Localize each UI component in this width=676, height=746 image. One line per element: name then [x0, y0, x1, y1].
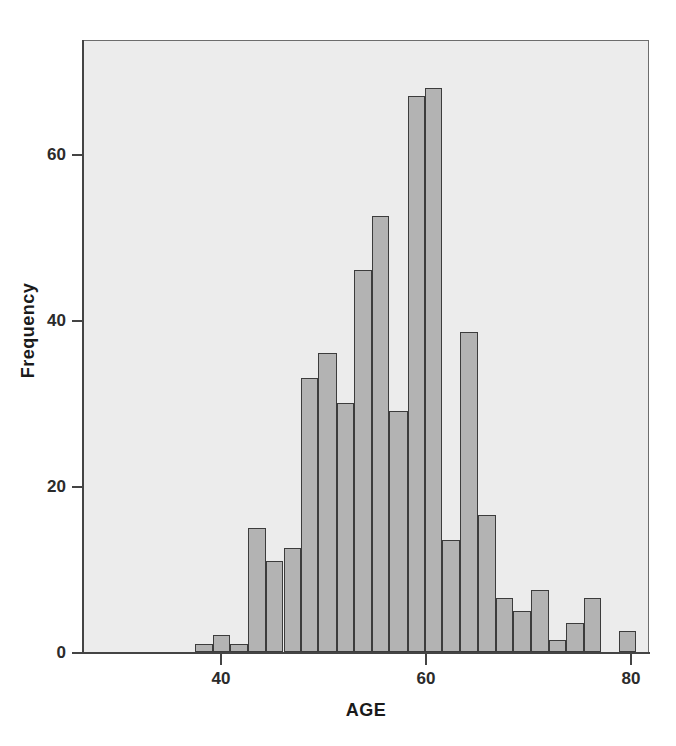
y-axis-tick-label: 60 — [26, 146, 66, 163]
histogram-bar — [566, 623, 583, 652]
histogram-bar — [213, 635, 230, 652]
y-axis-line — [82, 40, 84, 654]
histogram-bar — [584, 598, 601, 652]
histogram-bar — [230, 644, 247, 652]
plot-area — [84, 41, 648, 652]
y-axis-tick — [72, 154, 83, 156]
y-axis-title: Frequency — [18, 241, 39, 421]
histogram-bar — [389, 411, 407, 652]
histogram-bar — [425, 88, 442, 652]
x-axis-tick — [630, 653, 632, 665]
histogram-bar — [372, 216, 389, 652]
histogram-bar — [408, 96, 425, 652]
x-axis-tick-label: 60 — [396, 670, 456, 687]
histogram-bar — [284, 548, 301, 652]
histogram-chart: 0204060 406080 Frequency AGE — [0, 0, 676, 746]
x-axis-tick-label: 80 — [601, 670, 661, 687]
y-axis-tick — [72, 652, 83, 654]
x-axis-tick-label: 40 — [191, 670, 251, 687]
histogram-bar — [248, 528, 266, 653]
x-axis-title: AGE — [83, 700, 649, 721]
histogram-bar — [301, 378, 318, 652]
histogram-bar — [442, 540, 459, 652]
y-axis-tick — [72, 320, 83, 322]
histogram-bar — [195, 644, 212, 652]
histogram-bar — [531, 590, 549, 652]
histogram-bar — [496, 598, 513, 652]
histogram-bar — [354, 270, 371, 652]
y-axis-tick-label: 20 — [26, 478, 66, 495]
histogram-bar — [478, 515, 495, 652]
x-axis-tick — [220, 653, 222, 665]
plot-frame — [83, 40, 649, 653]
y-axis-tick-label: 0 — [26, 644, 66, 661]
x-axis-tick — [425, 653, 427, 665]
y-axis-tick — [72, 486, 83, 488]
histogram-bar — [337, 403, 354, 652]
x-axis-line — [82, 652, 650, 654]
histogram-bar — [549, 640, 566, 652]
histogram-bar — [460, 332, 478, 652]
histogram-bar — [266, 561, 283, 652]
histogram-bar — [318, 353, 336, 652]
histogram-bar — [513, 611, 530, 653]
histogram-bar — [619, 631, 636, 652]
